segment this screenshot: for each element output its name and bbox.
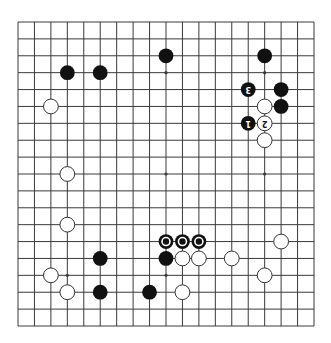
white-stone-icon: [191, 251, 206, 266]
white-stone-icon: [257, 133, 272, 148]
black-stone: [60, 65, 75, 80]
white-stone: [43, 268, 58, 283]
black-stone: [159, 48, 174, 63]
white-stone: [257, 99, 272, 114]
black-stone: [191, 234, 206, 249]
black-stone: [274, 82, 289, 97]
black-stone-icon: [93, 251, 108, 266]
black-stone-icon: [257, 48, 272, 63]
white-stone: [257, 133, 272, 148]
move-number-label: 1: [245, 119, 251, 128]
white-stone: [175, 251, 190, 266]
move-number-label: 2: [262, 119, 268, 128]
white-stone: [60, 285, 75, 300]
white-stone-icon: [43, 99, 58, 114]
black-stone: [93, 65, 108, 80]
white-stone-icon: [60, 285, 75, 300]
star-point-icon: [263, 71, 266, 74]
go-board-diagram: 312: [0, 0, 331, 343]
white-stone-icon: [43, 268, 58, 283]
black-stone: 3: [241, 82, 256, 97]
black-stone-icon: [159, 251, 174, 266]
go-board: 312: [0, 0, 331, 343]
black-stone: [93, 285, 108, 300]
white-stone-icon: [175, 285, 190, 300]
black-stone-icon: [93, 285, 108, 300]
white-stone: [191, 251, 206, 266]
white-stone-icon: [60, 217, 75, 232]
white-stone: [60, 217, 75, 232]
white-stone: [257, 268, 272, 283]
black-stone-icon: [159, 234, 174, 249]
white-stone-icon: [257, 99, 272, 114]
white-stone-icon: [60, 167, 75, 182]
black-stone-icon: [159, 48, 174, 63]
black-stone-icon: [142, 285, 157, 300]
white-stone: [224, 251, 239, 266]
white-stone-icon: [274, 234, 289, 249]
white-stone: [175, 285, 190, 300]
black-stone-icon: [93, 65, 108, 80]
black-stone-icon: [175, 234, 190, 249]
black-stone-icon: [274, 82, 289, 97]
white-stone-icon: [175, 251, 190, 266]
white-stone-icon: [224, 251, 239, 266]
white-stone: 2: [257, 116, 272, 131]
black-stone-icon: [274, 99, 289, 114]
star-point-icon: [164, 274, 167, 277]
black-stone: [159, 234, 174, 249]
black-stone: [93, 251, 108, 266]
black-stone: [142, 285, 157, 300]
white-stone-icon: [257, 268, 272, 283]
black-stone: 1: [241, 116, 256, 131]
black-stone: [159, 251, 174, 266]
black-stone-icon: [191, 234, 206, 249]
star-point-icon: [164, 172, 167, 175]
star-point-icon: [263, 172, 266, 175]
black-stone-icon: [60, 65, 75, 80]
black-stone: [274, 99, 289, 114]
star-point-icon: [66, 274, 69, 277]
white-stone: [60, 167, 75, 182]
black-stone: [175, 234, 190, 249]
white-stone: [274, 234, 289, 249]
star-point-icon: [164, 71, 167, 74]
black-stone: [257, 48, 272, 63]
move-number-label: 3: [245, 85, 251, 94]
white-stone: [43, 99, 58, 114]
